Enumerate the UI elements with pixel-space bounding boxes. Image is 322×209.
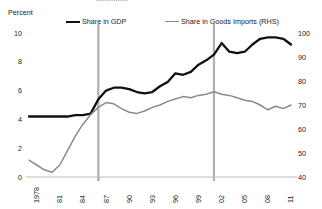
chart-container: ............... Percent Share in GDP Sha… [0, 0, 322, 209]
y-tick-label-left-0: 0 [6, 173, 22, 182]
reference-lines-group [98, 24, 214, 181]
plot-area [0, 0, 322, 209]
x-tick-label-90: 90 [125, 195, 134, 203]
x-tick-label-99: 99 [194, 195, 203, 203]
y-tick-label-right-40: 40 [298, 173, 316, 182]
x-tick-label-93: 93 [148, 195, 157, 203]
series-line-share-in-goods-imports [29, 92, 291, 172]
y-tick-label-right-70: 70 [298, 101, 316, 110]
y-tick-label-right-80: 80 [298, 77, 316, 86]
data-series-group [29, 37, 291, 172]
x-tick-label-1978: 1978 [32, 187, 41, 203]
x-tick-label-84: 84 [78, 195, 87, 203]
x-tick-label-96: 96 [171, 195, 180, 203]
y-tick-label-left-8: 8 [6, 57, 22, 66]
y-tick-label-left-10: 10 [6, 29, 22, 38]
x-tick-label-87: 87 [102, 195, 111, 203]
x-tick-label-02: 02 [217, 195, 226, 203]
y-tick-label-left-6: 6 [6, 86, 22, 95]
x-tick-label-05: 05 [240, 195, 249, 203]
y-tick-label-left-2: 2 [6, 144, 22, 153]
y-tick-label-right-90: 90 [298, 53, 316, 62]
y-tick-label-right-50: 50 [298, 149, 316, 158]
y-tick-label-left-4: 4 [6, 115, 22, 124]
x-tick-label-81: 81 [55, 195, 64, 203]
x-tick-label-08: 08 [263, 195, 272, 203]
x-tick-label-11: 11 [286, 196, 295, 203]
y-tick-label-right-100: 100 [298, 29, 316, 38]
y-tick-label-right-60: 60 [298, 125, 316, 134]
x-tick-marks-group [98, 177, 214, 181]
